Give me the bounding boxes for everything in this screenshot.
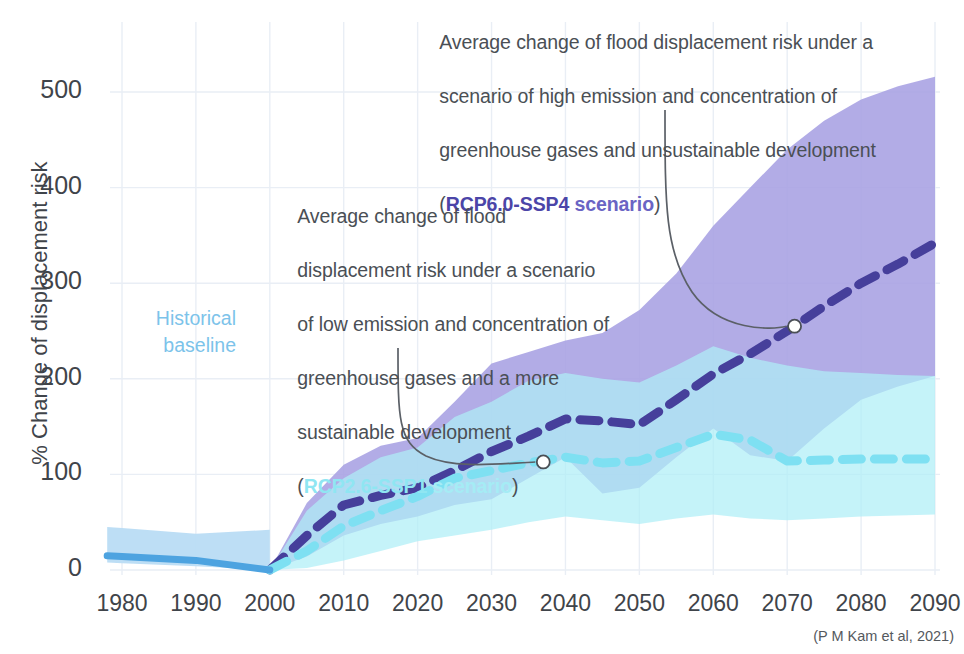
historical-baseline-label: Historical baseline <box>118 305 236 359</box>
annotation-low-line4: greenhouse gases and a more <box>297 367 559 389</box>
annotation-high-line3: greenhouse gases and unsustainable devel… <box>439 139 876 161</box>
x-axis-tick-label: 2030 <box>452 590 532 617</box>
y-axis-label: % Change of displacement risk <box>27 83 53 543</box>
annotation-low-line3: of low emission and concentration of <box>297 313 609 335</box>
annotation-low-close-paren: ) <box>512 475 518 497</box>
annotation-low-line1: Average change of flood <box>297 205 506 227</box>
x-axis-tick-label: 2080 <box>821 590 901 617</box>
leader-dot-high-scenario <box>788 320 801 333</box>
x-axis-tick-label: 2020 <box>378 590 458 617</box>
x-axis-tick-label: 2040 <box>525 590 605 617</box>
x-axis-tick-label: 2010 <box>304 590 384 617</box>
y-axis-tick-label: 0 <box>10 553 82 582</box>
annotation-high-line1: Average change of flood displacement ris… <box>439 31 873 53</box>
x-axis-tick-label: 2070 <box>747 590 827 617</box>
annotation-high-line2: scenario of high emission and concentrat… <box>439 85 837 107</box>
annotation-low-scenario-name: RCP2.6-SSP1 <box>304 475 428 497</box>
x-axis-tick-label: 2060 <box>673 590 753 617</box>
x-axis-tick-label: 2050 <box>599 590 679 617</box>
annotation-low-scenario: Average change of flood displacement ris… <box>276 176 656 527</box>
historical-baseline-line1: Historical <box>156 307 236 329</box>
x-axis-tick-label: 1990 <box>156 590 236 617</box>
flood-displacement-risk-chart: Average change of flood displacement ris… <box>0 0 964 654</box>
source-citation: (P M Kam et al, 2021) <box>813 628 954 644</box>
annotation-low-line2: displacement risk under a scenario <box>297 259 595 281</box>
historical-baseline-line2: baseline <box>163 334 236 356</box>
annotation-low-scenario-word: scenario <box>427 475 512 497</box>
x-axis-tick-label: 2000 <box>230 590 310 617</box>
x-axis-tick-label: 1980 <box>82 590 162 617</box>
annotation-low-line5: sustainable development <box>297 421 510 443</box>
x-axis-tick-label: 2090 <box>895 590 964 617</box>
